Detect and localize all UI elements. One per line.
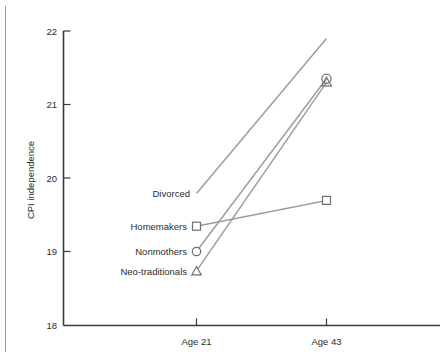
y-tick-label-20: 20 (46, 173, 57, 184)
series-label-divorced: Divorced (153, 188, 191, 199)
marker-triangle-neo-traditionals-age21 (192, 267, 201, 275)
series-line-homemakers (197, 200, 327, 226)
figure-container: 22 21 20 19 18 Age 21 Age 43 CPI indepen… (0, 0, 447, 358)
x-tick-label-age21: Age 21 (181, 336, 211, 347)
series-line-divorced (197, 39, 327, 194)
marker-circle-nonmothers-age21 (192, 247, 200, 255)
y-tick-label-19: 19 (46, 246, 57, 257)
marker-square-homemakers-age21 (193, 222, 201, 230)
series-line-neo-traditionals (197, 82, 327, 271)
marker-square-homemakers-age43 (323, 196, 331, 204)
series-label-homemakers: Homemakers (131, 221, 188, 232)
series-label-neo-traditionals: Neo-traditionals (120, 266, 187, 277)
line-chart: 22 21 20 19 18 Age 21 Age 43 CPI indepen… (0, 0, 447, 358)
series-line-nonmothers (197, 79, 327, 252)
y-tick-label-21: 21 (46, 99, 57, 110)
series-label-nonmothers: Nonmothers (135, 246, 187, 257)
y-tick-label-18: 18 (46, 320, 57, 331)
y-axis-title: CPI independence (25, 141, 36, 219)
y-tick-label-22: 22 (46, 26, 57, 37)
x-tick-label-age43: Age 43 (311, 336, 341, 347)
